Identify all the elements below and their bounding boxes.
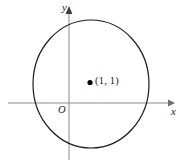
center-point-marker xyxy=(87,80,92,85)
coordinate-plane-figure: y x O (1, 1) xyxy=(0,0,182,168)
center-point-label: (1, 1) xyxy=(95,76,119,87)
x-axis-label: x xyxy=(171,106,176,117)
origin-label: O xyxy=(58,105,66,116)
y-axis-label: y xyxy=(62,2,67,13)
figure-canvas xyxy=(0,0,182,168)
